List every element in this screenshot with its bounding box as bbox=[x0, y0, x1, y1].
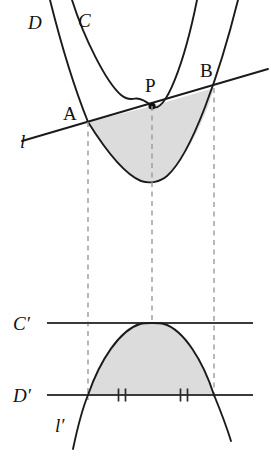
label-curve-D: D bbox=[27, 12, 42, 33]
lower-shaded-region bbox=[88, 323, 214, 395]
parabola-diagram: D C A P B l C′ D′ l′ bbox=[0, 0, 271, 464]
upper-shaded-region bbox=[88, 88, 214, 182]
parabola-C-curve bbox=[72, 0, 197, 107]
label-curve-C-prime: C′ bbox=[13, 313, 31, 334]
label-point-A: A bbox=[63, 103, 77, 124]
label-curve-C: C bbox=[78, 10, 91, 31]
label-line-l-prime: l′ bbox=[55, 415, 65, 436]
label-point-B: B bbox=[200, 60, 213, 81]
label-line-l: l bbox=[20, 131, 25, 152]
label-curve-D-prime: D′ bbox=[12, 385, 32, 406]
label-point-P: P bbox=[145, 75, 156, 96]
figure-root: D C A P B l C′ D′ l′ bbox=[0, 0, 271, 464]
